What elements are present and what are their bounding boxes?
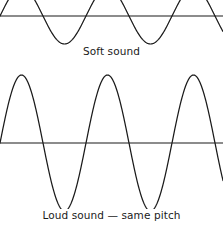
sound-amplitude-figure: Soft sound Loud sound — same pitch [0, 0, 223, 225]
soft-sound-caption: Soft sound [0, 45, 223, 57]
soft-sound-waveform-svg [0, 0, 223, 46]
soft-sound-sine-curve [0, 0, 223, 44]
loud-sound-waveform-svg [0, 62, 223, 209]
loud-sound-caption: Loud sound — same pitch [0, 209, 223, 221]
loud-sound-sine-curve [0, 75, 223, 209]
loud-sound-wave-panel [0, 62, 223, 209]
soft-sound-wave-panel [0, 0, 223, 46]
